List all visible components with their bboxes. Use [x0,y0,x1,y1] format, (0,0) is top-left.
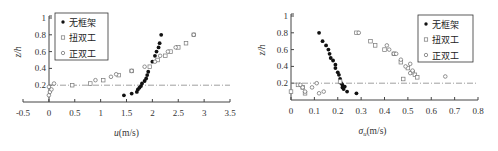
data-point-square [383,48,387,52]
data-point-square [338,80,342,84]
y-tick-label: 0.8 [35,30,47,40]
data-point-circle [387,48,391,52]
data-point-circle [47,85,51,89]
y-axis-title: z/h [13,46,23,58]
x-tick-label: 0.8 [472,106,484,116]
data-point-filled [146,70,150,74]
legend-label: 正双工 [69,49,96,59]
x-tick-label: 0.3 [356,106,368,116]
data-point-circle [317,91,321,95]
data-point-filled [122,93,126,97]
data-point-filled [317,31,321,35]
y-tick-label: 1 [284,11,289,21]
x-tick-label: 3.5 [224,108,236,118]
y-tick-label: 0.4 [35,63,47,73]
data-point-square [401,77,405,81]
x-tick-label: -0.5 [16,108,31,118]
data-point-square [164,54,168,58]
y-axis-title: z/h [257,44,267,56]
x-tick-label: 0.5 [402,106,414,116]
data-point-circle [301,86,305,90]
data-point-circle [114,72,118,76]
data-point-filled [153,54,157,58]
chart-turbulence-profile: 00.10.20.30.40.50.60.70.80.20.40.60.81z/… [250,0,498,151]
data-point-circle [404,65,408,69]
x-tick-label: 2 [150,108,155,118]
x-tick-label: 2.5 [173,108,185,118]
data-point-filled [324,44,328,48]
x-axis-title: u(m/s) [114,128,139,139]
data-point-circle [153,60,157,64]
data-point-square [88,82,92,86]
data-point-filled [355,91,359,95]
y-tick-label: 0.8 [277,28,289,38]
x-tick-label: 0.6 [426,106,438,116]
x-tick-label: 3 [202,108,207,118]
x-axis-title: σu(m/s) [359,126,387,137]
x-tick-label: 0.7 [449,106,461,116]
data-point-circle [52,82,56,86]
data-point-filled [144,77,148,81]
data-point-circle [143,65,147,69]
y-tick-label: 0.6 [277,45,289,55]
data-point-filled [321,39,325,43]
data-point-filled [130,92,134,96]
legend-label: 正双工 [432,51,459,61]
chart-velocity-profile: -0.500.511.522.533.50.20.40.60.81z/hu(m/… [0,0,250,151]
y-tick-label: 0.6 [35,47,47,57]
data-point-square [184,41,188,45]
data-point-filled [158,41,162,45]
x-tick-label: 1 [98,108,103,118]
data-point-circle [408,62,412,66]
legend-label: 扭双工 [69,32,96,43]
data-point-square [70,83,74,87]
data-point-filled [334,66,338,70]
x-tick-label: 1.5 [121,108,133,118]
data-point-circle [192,33,196,37]
data-point-square [369,39,373,43]
data-point-circle [94,78,98,82]
data-point-circle [399,58,403,62]
legend-marker-square [424,38,427,41]
data-point-filled [328,52,332,56]
data-point-square [373,44,377,48]
legend-marker-filled-circle [61,20,64,23]
data-point-filled [159,33,163,37]
data-point-circle [310,86,314,90]
legend-label: 无框架 [69,17,96,28]
data-point-circle [315,81,319,85]
data-point-filled [145,73,149,77]
data-point-circle [130,69,134,73]
data-point-circle [166,50,170,54]
data-point-circle [385,44,389,48]
data-point-circle [158,54,162,58]
data-point-filled [345,90,349,94]
x-tick-label: 0 [47,108,52,118]
data-point-circle [303,90,307,94]
data-point-filled [155,50,159,54]
data-point-circle [411,69,415,73]
data-point-circle [109,75,113,79]
y-tick-label: 1 [42,13,47,23]
data-point-filled [157,46,161,50]
legend-marker-circle [61,51,64,54]
legend-label: 扭双工 [432,34,459,45]
data-point-filled [334,63,338,67]
legend-marker-square [61,36,64,39]
x-tick-label: 0.2 [332,106,343,116]
x-tick-label: 0 [289,106,294,116]
data-point-circle [174,46,178,50]
x-tick-label: 0.5 [69,108,81,118]
data-point-circle [357,31,361,35]
data-point-filled [327,48,331,52]
legend-marker-filled-circle [424,22,427,25]
data-point-square [289,90,293,94]
x-tick-label: 0.1 [309,106,320,116]
data-point-circle [394,52,398,56]
data-point-square [148,65,152,69]
data-point-square [415,76,419,80]
data-point-circle [443,75,447,79]
data-point-filled [337,73,341,77]
data-point-filled [331,59,335,63]
x-tick-label: 0.4 [379,106,391,116]
